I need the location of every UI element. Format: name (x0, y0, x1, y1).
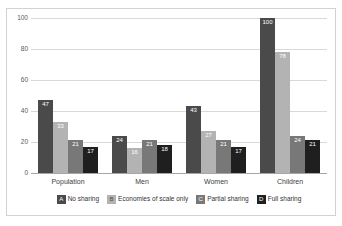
bar[interactable]: 16 (127, 148, 142, 173)
bar[interactable]: 27 (201, 131, 216, 173)
category-axis-labels: PopulationMenWomenChildren (31, 175, 327, 189)
bar-group: 47332117 (31, 18, 105, 173)
legend-label: No sharing (68, 196, 99, 203)
bar-value-label: 21 (68, 141, 83, 147)
category-label-women: Women (179, 175, 253, 189)
bar[interactable]: 18 (157, 145, 172, 173)
legend-key-icon: C (196, 195, 205, 204)
bar-value-label: 100 (260, 19, 275, 25)
bar-value-label: 43 (186, 107, 201, 113)
legend-item-d[interactable]: DFull sharing (257, 195, 302, 204)
bar-value-label: 17 (231, 148, 246, 154)
plot-area: 020406080100 473321172416211843272117100… (31, 18, 327, 173)
y-axis-tick-label: 80 (21, 46, 28, 53)
bar[interactable]: 43 (186, 106, 201, 173)
category-label-population: Population (31, 175, 105, 189)
y-axis-tick-label: 100 (17, 15, 28, 22)
bar[interactable]: 17 (231, 147, 246, 173)
bar-value-label: 27 (201, 132, 216, 138)
bar-value-label: 24 (112, 137, 127, 143)
y-axis-tick-label: 20 (21, 139, 28, 146)
bar[interactable]: 47 (38, 100, 53, 173)
bar[interactable]: 78 (275, 52, 290, 173)
legend-item-b[interactable]: BEconomies of scale only (107, 195, 188, 204)
bar[interactable]: 21 (216, 140, 231, 173)
bar-group: 100782421 (253, 18, 327, 173)
legend-item-c[interactable]: CPartial sharing (196, 195, 249, 204)
bar-value-label: 17 (83, 148, 98, 154)
bar-groups: 473321172416211843272117100782421 (31, 18, 327, 173)
bar[interactable]: 21 (68, 140, 83, 173)
legend-label: Partial sharing (207, 196, 249, 203)
bar-value-label: 16 (127, 149, 142, 155)
bar-value-label: 24 (290, 137, 305, 143)
category-label-children: Children (253, 175, 327, 189)
bar[interactable]: 33 (53, 122, 68, 173)
bar[interactable]: 24 (290, 136, 305, 173)
bar[interactable]: 17 (83, 147, 98, 173)
chart-legend: ANo sharingBEconomies of scale onlyCPart… (31, 191, 327, 207)
bar-value-label: 78 (275, 53, 290, 59)
gridline-0: 0 (31, 173, 327, 174)
bar-value-label: 33 (53, 123, 68, 129)
y-axis-tick-label: 40 (21, 108, 28, 115)
bar-value-label: 47 (38, 101, 53, 107)
chart-frame: 020406080100 473321172416211843272117100… (6, 8, 336, 216)
bar-group: 24162118 (105, 18, 179, 173)
legend-key-icon: B (107, 195, 116, 204)
bar[interactable]: 21 (305, 140, 320, 173)
legend-item-a[interactable]: ANo sharing (57, 195, 99, 204)
bar-value-label: 21 (216, 141, 231, 147)
bar-value-label: 21 (142, 141, 157, 147)
bar-group: 43272117 (179, 18, 253, 173)
bar[interactable]: 21 (142, 140, 157, 173)
bar[interactable]: 24 (112, 136, 127, 173)
legend-label: Economies of scale only (118, 196, 188, 203)
category-label-men: Men (105, 175, 179, 189)
bar[interactable]: 100 (260, 18, 275, 173)
y-axis-tick-label: 0 (24, 170, 28, 177)
bar-value-label: 18 (157, 146, 172, 152)
bar-value-label: 21 (305, 141, 320, 147)
legend-key-icon: A (57, 195, 66, 204)
legend-key-icon: D (257, 195, 266, 204)
legend-label: Full sharing (268, 196, 302, 203)
y-axis-tick-label: 60 (21, 77, 28, 84)
